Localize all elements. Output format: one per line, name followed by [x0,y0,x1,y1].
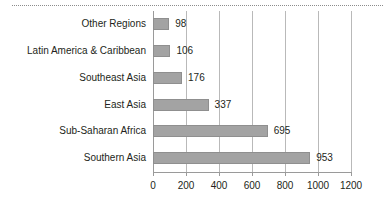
bar [153,45,170,57]
bar [153,152,310,164]
bar-row: Southern Asia953 [153,145,351,172]
x-tick-0 [153,172,154,176]
bar-row: Sub-Saharan Africa695 [153,118,351,145]
category-label: Other Regions [82,16,146,32]
x-tick-label: 1000 [307,179,329,193]
x-tick-600 [252,172,253,176]
bar-row: Other Regions98 [153,11,351,38]
bar-chart-figure: Other Regions98Latin America & Caribbean… [0,0,389,204]
x-tick-label: 0 [150,179,156,193]
gridline-1200 [351,11,352,172]
x-tick-1000 [318,172,319,176]
category-label: Latin America & Caribbean [27,43,146,59]
x-tick-label: 1200 [340,179,362,193]
x-tick-1200 [351,172,352,176]
bar [153,125,268,137]
x-tick-800 [285,172,286,176]
bar-value-label: 98 [175,16,186,32]
bar-value-label: 953 [316,150,333,166]
category-label: Sub-Saharan Africa [59,123,146,139]
dotted-divider [12,5,383,6]
x-tick-label: 600 [244,179,261,193]
bar-row: Southeast Asia176 [153,65,351,92]
bar-row: East Asia337 [153,92,351,119]
x-tick-label: 200 [178,179,195,193]
bar-value-label: 106 [176,43,193,59]
bar [153,99,209,111]
x-tick-label: 400 [211,179,228,193]
x-tick-label: 800 [277,179,294,193]
category-label: East Asia [104,97,146,113]
bar-row: Latin America & Caribbean106 [153,38,351,65]
plot-area: Other Regions98Latin America & Caribbean… [153,11,351,172]
x-tick-200 [186,172,187,176]
bar [153,72,182,84]
bar-value-label: 695 [274,123,291,139]
bar [153,18,169,30]
category-label: Southern Asia [84,150,146,166]
x-tick-400 [219,172,220,176]
category-label: Southeast Asia [79,70,146,86]
bar-value-label: 337 [215,97,232,113]
bar-value-label: 176 [188,70,205,86]
